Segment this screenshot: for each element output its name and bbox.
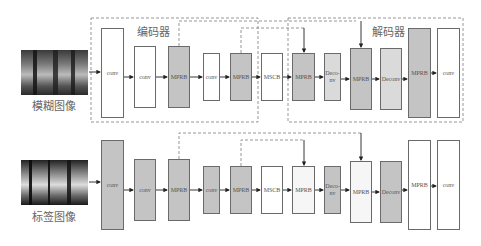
label-input-image: [21, 160, 88, 205]
encoder-label: 编码器: [137, 23, 170, 39]
top-mprb-3: MPRB: [292, 53, 315, 101]
top-conv-out: conv: [437, 28, 460, 118]
bottom-conv-3: conv: [203, 166, 220, 214]
bottom-mprb-2: MPRB: [230, 166, 252, 214]
bottom-mprb-5: MPRB: [408, 140, 431, 230]
bottom-mprb-3: MPRB: [292, 166, 315, 214]
bottom-deconv-2: Deconv: [380, 161, 402, 223]
bottom-mscb: MSCB: [261, 166, 283, 214]
top-mprb-2: MPRB: [230, 53, 252, 101]
label-image-label: 标签图像: [32, 208, 76, 224]
decoder-label: 解码器: [372, 23, 405, 39]
bottom-conv-2: conv: [134, 159, 156, 221]
top-mprb-5: MPRB: [408, 28, 431, 118]
bottom-deconv-1: Deco-nv: [324, 166, 341, 214]
top-mprb-1: MPRB: [168, 46, 190, 108]
blurred-input-image: [21, 50, 88, 95]
bottom-mprb-4: MPRB: [350, 161, 372, 223]
blurred-image-label: 模糊图像: [32, 97, 76, 113]
top-deconv-1: Deco-nv: [324, 53, 341, 101]
top-deconv-2: Deconv: [380, 48, 402, 110]
bottom-conv-out: conv: [437, 140, 460, 230]
bottom-conv-1: conv: [101, 140, 124, 230]
bottom-mprb-1: MPRB: [168, 159, 190, 221]
top-mscb: MSCB: [261, 53, 283, 101]
top-mprb-4: MPRB: [350, 48, 372, 110]
network-diagram: 模糊图像 编码器 解码器 conv conv MPRB conv MPRB MS…: [0, 0, 481, 246]
top-conv-3: conv: [203, 53, 220, 101]
top-conv-1: conv: [101, 28, 124, 118]
top-conv-2: conv: [134, 46, 156, 108]
